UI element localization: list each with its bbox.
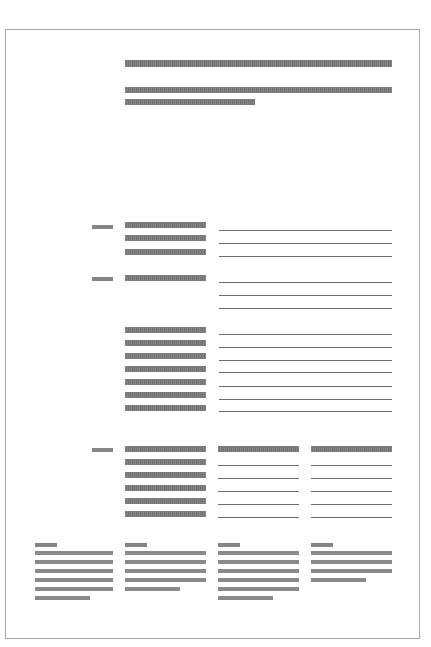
footer-text-placeholder xyxy=(35,560,113,564)
field-label-placeholder xyxy=(125,249,206,255)
input-line[interactable] xyxy=(219,243,392,244)
footer-text-placeholder xyxy=(125,551,206,555)
input-line[interactable] xyxy=(219,256,392,257)
input-line[interactable] xyxy=(219,230,392,231)
input-line[interactable] xyxy=(218,465,299,466)
footer-text-placeholder xyxy=(125,587,180,591)
input-line[interactable] xyxy=(219,347,392,348)
subtitle-placeholder xyxy=(125,99,255,105)
footer-text-placeholder xyxy=(218,578,299,582)
input-line[interactable] xyxy=(219,411,392,412)
input-line[interactable] xyxy=(219,282,392,283)
section-label-placeholder xyxy=(92,225,113,229)
input-line[interactable] xyxy=(311,478,392,479)
field-label-placeholder xyxy=(125,353,206,359)
footer-text-placeholder xyxy=(311,578,366,582)
field-label-placeholder xyxy=(125,327,206,333)
field-label-placeholder xyxy=(125,275,206,281)
footer-text-placeholder xyxy=(125,578,206,582)
input-line[interactable] xyxy=(219,295,392,296)
field-label-placeholder xyxy=(125,472,206,478)
field-label-placeholder xyxy=(125,459,206,465)
footer-text-placeholder xyxy=(125,569,206,573)
footer-text-placeholder xyxy=(218,560,299,564)
field-label-placeholder xyxy=(311,446,392,452)
input-line[interactable] xyxy=(219,372,392,373)
footer-heading-placeholder xyxy=(311,543,333,547)
field-label-placeholder xyxy=(125,366,206,372)
subtitle-placeholder xyxy=(125,87,392,93)
input-line[interactable] xyxy=(218,478,299,479)
field-label-placeholder xyxy=(125,392,206,398)
footer-text-placeholder xyxy=(218,596,273,600)
footer-text-placeholder xyxy=(218,551,299,555)
footer-text-placeholder xyxy=(311,551,392,555)
footer-text-placeholder xyxy=(311,569,392,573)
field-label-placeholder xyxy=(125,340,206,346)
input-line[interactable] xyxy=(219,399,392,400)
footer-heading-placeholder xyxy=(125,543,147,547)
input-line[interactable] xyxy=(219,360,392,361)
section-label-placeholder xyxy=(92,277,113,281)
input-line[interactable] xyxy=(218,504,299,505)
title-placeholder xyxy=(125,60,392,67)
input-line[interactable] xyxy=(311,465,392,466)
input-line[interactable] xyxy=(311,491,392,492)
footer-heading-placeholder xyxy=(218,543,240,547)
document-content xyxy=(0,0,431,647)
field-label-placeholder xyxy=(125,405,206,411)
field-label-placeholder xyxy=(218,446,299,452)
footer-heading-placeholder xyxy=(35,543,57,547)
footer-text-placeholder xyxy=(218,587,299,591)
field-label-placeholder xyxy=(125,498,206,504)
input-line[interactable] xyxy=(311,504,392,505)
field-label-placeholder xyxy=(125,446,206,452)
footer-text-placeholder xyxy=(35,578,113,582)
input-line[interactable] xyxy=(218,491,299,492)
field-label-placeholder xyxy=(125,485,206,491)
input-line[interactable] xyxy=(218,517,299,518)
footer-text-placeholder xyxy=(218,569,299,573)
field-label-placeholder xyxy=(125,235,206,241)
footer-text-placeholder xyxy=(125,560,206,564)
input-line[interactable] xyxy=(219,334,392,335)
footer-text-placeholder xyxy=(311,560,392,564)
input-line[interactable] xyxy=(219,386,392,387)
footer-text-placeholder xyxy=(35,551,113,555)
section-label-placeholder xyxy=(92,448,113,452)
input-line[interactable] xyxy=(311,517,392,518)
field-label-placeholder xyxy=(125,222,206,228)
footer-text-placeholder xyxy=(35,596,90,600)
field-label-placeholder xyxy=(125,511,206,517)
footer-text-placeholder xyxy=(35,569,113,573)
input-line[interactable] xyxy=(219,308,392,309)
field-label-placeholder xyxy=(125,379,206,385)
footer-text-placeholder xyxy=(35,587,113,591)
